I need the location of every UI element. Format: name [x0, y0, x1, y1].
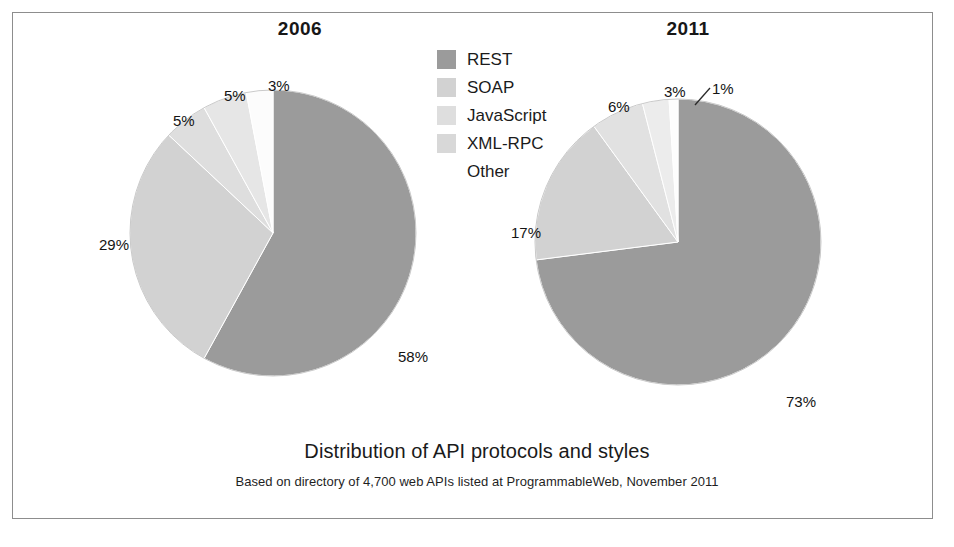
- slice-value-2011-other: 1%: [712, 81, 734, 96]
- pie-svg-2011: [533, 97, 823, 387]
- chart-title-2011: 2011: [618, 18, 758, 40]
- legend-swatch-soap: [437, 78, 456, 97]
- legend-swatch-xmlrpc: [437, 134, 456, 153]
- slice-value-2006-rest: 58%: [398, 349, 428, 364]
- legend-swatch-rest: [437, 50, 456, 69]
- pie-chart-2006: [128, 88, 418, 378]
- slice-value-2006-other: 3%: [268, 78, 290, 93]
- legend-label-soap: SOAP: [467, 79, 514, 96]
- legend-label-rest: REST: [467, 51, 512, 68]
- caption-subtitle: Based on directory of 4,700 web APIs lis…: [0, 474, 954, 489]
- chart-title-2006: 2006: [230, 18, 370, 40]
- slice-value-2011-javascript: 6%: [608, 99, 630, 114]
- slice-value-2006-javascript: 5%: [173, 113, 195, 128]
- legend-label-other: Other: [467, 163, 510, 180]
- leader-line-2011-other: [690, 86, 714, 108]
- legend-swatch-other: [437, 162, 456, 181]
- caption-title: Distribution of API protocols and styles: [0, 440, 954, 463]
- caption: Distribution of API protocols and styles…: [0, 440, 954, 489]
- slice-value-2011-xmlrpc: 3%: [664, 84, 686, 99]
- slice-value-2006-xmlrpc: 5%: [224, 88, 246, 103]
- pie-chart-2011: [533, 97, 823, 387]
- pie-svg-2006: [128, 88, 418, 378]
- slice-value-2006-soap: 29%: [99, 237, 129, 252]
- figure-root: 2006 2011 REST SOAP JavaScript XML-RPC O…: [0, 0, 954, 547]
- legend-item-rest: REST: [437, 45, 567, 73]
- slice-value-2011-rest: 73%: [786, 394, 816, 409]
- slice-value-2011-soap: 17%: [511, 225, 541, 240]
- legend-swatch-javascript: [437, 106, 456, 125]
